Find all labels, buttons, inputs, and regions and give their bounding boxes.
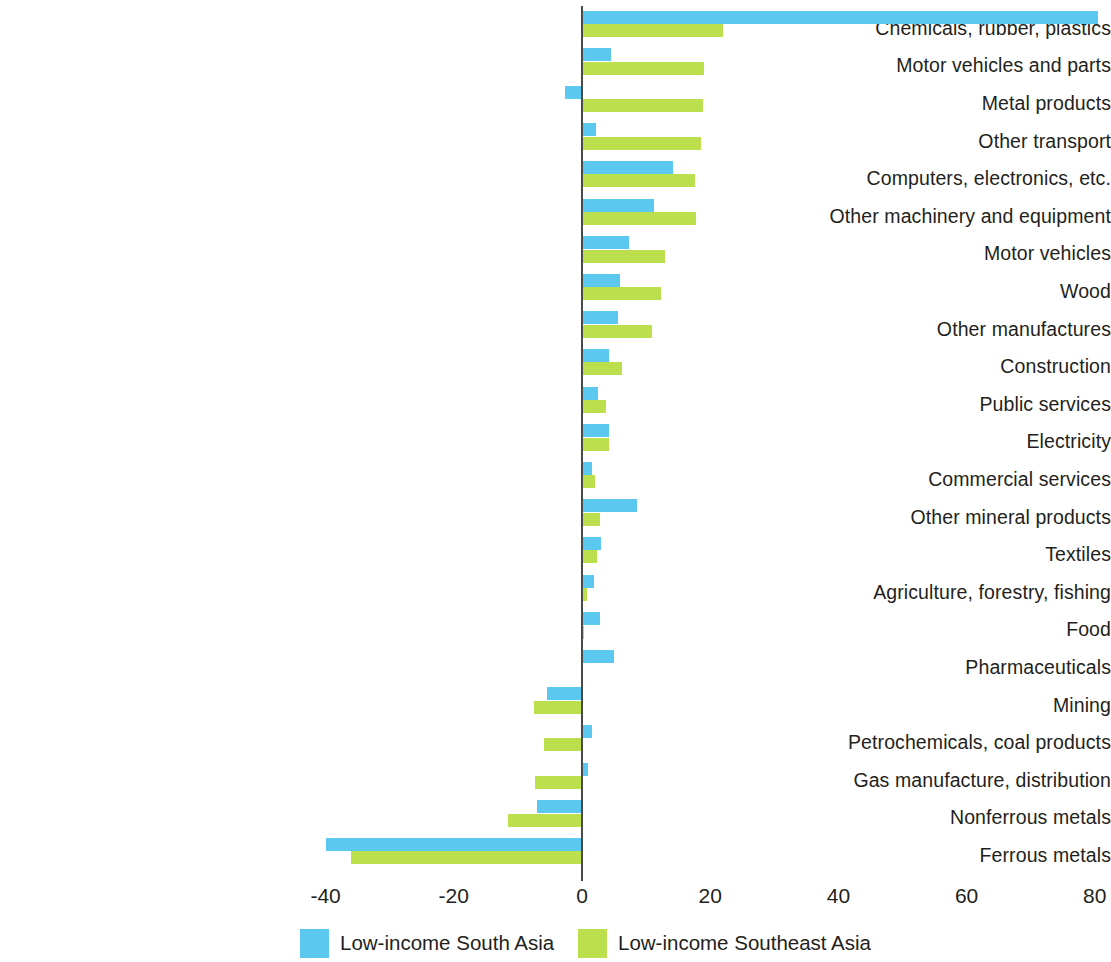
bar-blue [582, 424, 609, 437]
chart-row: Chemicals, rubber, plastics [0, 9, 1111, 47]
chart-row: Motor vehicles [0, 235, 1111, 273]
category-label: Food [811, 618, 1111, 641]
chart-row: Metal products [0, 84, 1111, 122]
bar-blue [582, 462, 592, 475]
category-label: Other transport [811, 129, 1111, 152]
bar-green [582, 137, 701, 150]
category-label: Motor vehicles and parts [811, 54, 1111, 77]
category-label: Ferrous metals [811, 843, 1111, 866]
chart-row: Textiles [0, 535, 1111, 573]
category-label: Agriculture, forestry, fishing [811, 580, 1111, 603]
x-tick-label: 60 [955, 884, 978, 908]
bar-blue [565, 86, 582, 99]
legend-label: Low-income South Asia [340, 931, 554, 955]
bar-blue [582, 499, 637, 512]
bar-blue [582, 537, 601, 550]
chart-row: Construction [0, 347, 1111, 385]
x-tick-label: -20 [439, 884, 469, 908]
chart-row: Motor vehicles and parts [0, 47, 1111, 85]
bar-blue [582, 650, 614, 663]
bar-blue [582, 575, 594, 588]
legend-item[interactable]: Low-income Southeast Asia [578, 929, 871, 958]
category-label: Other manufactures [811, 317, 1111, 340]
category-label: Nonferrous metals [811, 806, 1111, 829]
category-label: Computers, electronics, etc. [811, 167, 1111, 190]
category-label: Public services [811, 392, 1111, 415]
bar-green [351, 851, 582, 864]
legend-item[interactable]: Low-income South Asia [300, 929, 554, 958]
category-label: Other mineral products [811, 505, 1111, 528]
x-tick-label: 40 [827, 884, 850, 908]
chart-row: Other manufactures [0, 310, 1111, 348]
category-label: Textiles [811, 543, 1111, 566]
x-tick-label: 20 [699, 884, 722, 908]
bar-blue [537, 800, 582, 813]
chart-row: Pharmaceuticals [0, 648, 1111, 686]
bar-blue [582, 123, 596, 136]
bar-blue [582, 11, 1098, 24]
bar-green [582, 513, 600, 526]
legend-swatch-green-icon [578, 929, 607, 958]
bar-blue [582, 236, 629, 249]
bar-green [582, 24, 723, 37]
chart-row: Computers, electronics, etc. [0, 159, 1111, 197]
x-tick-label: 80 [1083, 884, 1106, 908]
bar-green [582, 62, 704, 75]
bar-green [535, 776, 582, 789]
bar-blue [582, 161, 673, 174]
legend-label: Low-income Southeast Asia [618, 931, 871, 955]
chart-row: Mining [0, 686, 1111, 724]
bar-green [582, 99, 703, 112]
category-label: Gas manufacture, distribution [811, 768, 1111, 791]
category-label: Motor vehicles [811, 242, 1111, 265]
category-label: Electricity [811, 430, 1111, 453]
chart-row: Petrochemicals, coal products [0, 723, 1111, 761]
bar-green [582, 174, 695, 187]
bar-blue [582, 612, 600, 625]
bar-blue [582, 725, 592, 738]
chart-row: Agriculture, forestry, fishing [0, 573, 1111, 611]
chart-row: Other transport [0, 122, 1111, 160]
chart-row: Nonferrous metals [0, 799, 1111, 837]
bar-blue [582, 48, 611, 61]
bar-blue [582, 763, 588, 776]
bar-green [534, 701, 582, 714]
bar-blue [582, 274, 620, 287]
category-label: Petrochemicals, coal products [811, 731, 1111, 754]
bar-green [582, 287, 661, 300]
bar-blue [326, 838, 582, 851]
category-label: Mining [811, 693, 1111, 716]
bar-green [582, 212, 696, 225]
chart-row: Ferrous metals [0, 836, 1111, 874]
bar-green [508, 814, 582, 827]
bar-green [582, 250, 665, 263]
x-axis: -40-20020406080 [0, 884, 1111, 924]
bar-blue [582, 349, 609, 362]
zero-axis-line [581, 6, 583, 874]
bar-blue [582, 387, 598, 400]
category-label: Other machinery and equipment [811, 204, 1111, 227]
x-tick-label: -40 [310, 884, 340, 908]
bar-blue [547, 687, 582, 700]
bar-green [582, 325, 652, 338]
chart-row: Food [0, 611, 1111, 649]
chart-row: Electricity [0, 423, 1111, 461]
legend-swatch-blue-icon [300, 929, 329, 958]
chart-row: Gas manufacture, distribution [0, 761, 1111, 799]
bar-blue [582, 311, 618, 324]
bar-green [544, 738, 582, 751]
bar-green [582, 550, 597, 563]
chart-row: Other machinery and equipment [0, 197, 1111, 235]
category-label: Metal products [811, 91, 1111, 114]
chart-row: Other mineral products [0, 498, 1111, 536]
bar-green [582, 362, 622, 375]
chart-row: Public services [0, 385, 1111, 423]
chart-row: Commercial services [0, 460, 1111, 498]
chart-legend: Low-income South AsiaLow-income Southeas… [0, 929, 1111, 962]
x-tick-mark-zero [581, 872, 583, 881]
category-label: Pharmaceuticals [811, 655, 1111, 678]
bar-green [582, 438, 609, 451]
bar-blue [582, 199, 654, 212]
